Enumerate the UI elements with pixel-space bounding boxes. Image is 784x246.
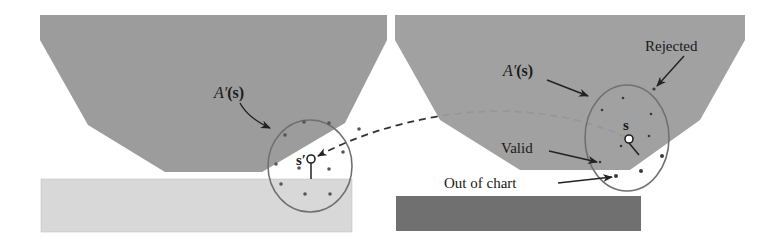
rejected-label: Rejected [645, 38, 698, 54]
left-panel: s′ A′(s) [40, 15, 387, 232]
left-lower-region [41, 179, 352, 232]
left-region-label: A′(s) [213, 84, 244, 102]
out-of-chart-label: Out of chart [444, 175, 517, 191]
right-panel: s A′(s) Rejected Valid Out of chart [395, 15, 745, 231]
right-lower-region [396, 196, 641, 231]
valid-label: Valid [501, 140, 533, 156]
sampling-diagram: s′ A′(s) s A′(s) Reje [0, 0, 784, 246]
left-point-s-prime [307, 155, 315, 163]
right-region-label: A′(s) [502, 62, 533, 80]
right-point-label: s [623, 117, 629, 133]
left-point-label: s′ [296, 152, 306, 168]
right-point-s [625, 135, 633, 143]
